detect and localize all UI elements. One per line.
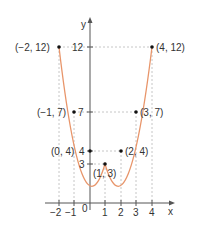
label-point-4: (4, 12) — [156, 42, 185, 53]
point-m1 — [72, 110, 76, 114]
x-tick-m1: −1 — [65, 207, 77, 218]
y-tick-4: 4 — [79, 146, 85, 157]
x-tick-1: 1 — [102, 207, 108, 218]
y-tick-12: 12 — [72, 42, 84, 53]
parabola-chart: y x −2 −1 0 1 2 3 4 12 7 4 3 (−2, 12) (−… — [0, 0, 197, 235]
point-1 — [103, 162, 107, 166]
x-tick-origin: 0 — [82, 203, 88, 214]
x-tick-4: 4 — [149, 207, 155, 218]
x-axis-arrow-icon — [169, 201, 175, 206]
y-axis-arrow-icon — [88, 17, 93, 23]
x-tick-2: 2 — [118, 207, 124, 218]
guide-lines — [59, 47, 152, 203]
y-tick-7: 7 — [78, 107, 84, 118]
x-tick-3: 3 — [133, 207, 139, 218]
label-point-0: (0, 4) — [51, 146, 74, 157]
point-3 — [134, 110, 138, 114]
x-axis-label: x — [168, 206, 173, 217]
point-4 — [150, 45, 154, 49]
label-point-1: (1, 3) — [93, 168, 116, 179]
point-0 — [88, 149, 92, 153]
point-2 — [119, 149, 123, 153]
x-tick-m2: −2 — [50, 207, 62, 218]
y-tick-3: 3 — [79, 159, 85, 170]
point-m2 — [57, 45, 61, 49]
ticks — [59, 47, 152, 206]
label-point-3: (3, 7) — [140, 107, 163, 118]
label-point-2: (2, 4) — [125, 146, 148, 157]
y-axis-label: y — [81, 19, 86, 30]
label-point-m1: (−1, 7) — [37, 107, 66, 118]
label-point-m2: (−2, 12) — [15, 42, 50, 53]
